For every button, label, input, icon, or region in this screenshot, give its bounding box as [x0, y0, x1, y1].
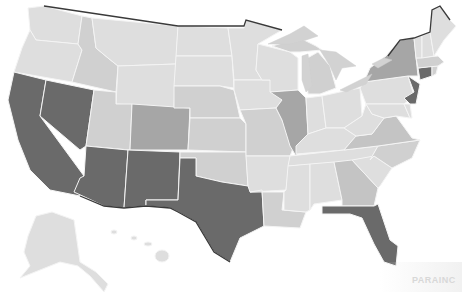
state-me[interactable]: [430, 6, 456, 56]
state-wa[interactable]: [28, 6, 82, 44]
state-ms[interactable]: [284, 164, 310, 212]
state-nd[interactable]: [176, 26, 232, 56]
watermark: PARAINC: [412, 275, 456, 285]
state-vt[interactable]: [414, 36, 422, 58]
state-ar[interactable]: [246, 156, 290, 192]
state-sd[interactable]: [174, 56, 234, 88]
state-hi[interactable]: [111, 230, 169, 262]
state-co[interactable]: [130, 104, 190, 150]
state-wy[interactable]: [116, 64, 176, 108]
state-ak[interactable]: [20, 212, 108, 292]
state-az[interactable]: [74, 146, 128, 208]
state-fl[interactable]: [322, 204, 398, 266]
state-ks[interactable]: [188, 118, 246, 152]
state-nm[interactable]: [124, 150, 180, 208]
us-choropleth-map: [0, 0, 462, 292]
state-ri[interactable]: [432, 66, 438, 76]
